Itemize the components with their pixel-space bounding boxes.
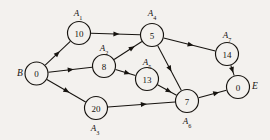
activity-label-a4: A4 [147,8,157,21]
arrow-head-icon [141,102,147,107]
terminal-label-e: E [251,81,258,91]
arrow-head-icon [113,31,119,36]
node-value-a3: 20 [92,104,102,114]
arrow-head-icon [68,68,74,73]
arrow-head-icon [124,70,130,75]
arrow-head-icon [229,66,234,72]
terminal-label-b: B [17,68,23,78]
edge-a2-to-a4 [114,42,142,60]
node-a4[interactable]: 5 [141,24,164,47]
activity-label-a2: A2 [99,43,109,56]
node-a3[interactable]: 20 [85,97,108,120]
network-diagram-canvas: 0108205137140 BA1A2A3A4A5A6A7E [0,0,270,140]
activity-label-a3: A3 [90,123,100,136]
edge-a3-to-a6 [108,102,175,107]
edge-a7-to-e [229,65,234,75]
node-a1[interactable]: 10 [68,22,91,45]
node-value-a5: 13 [143,75,153,85]
node-a7[interactable]: 14 [216,43,239,66]
node-value-a7: 14 [223,50,233,60]
edge-b-to-a2 [48,67,92,72]
activity-label-a6: A6 [182,116,192,129]
activity-label-a1: A1 [73,8,83,21]
node-value-a4: 5 [150,31,155,41]
node-value-a1: 10 [75,29,85,39]
edge-a4-to-a7 [164,38,216,51]
edge-a4-to-a6 [158,46,182,91]
arrow-head-icon [213,91,219,96]
node-value-a2: 8 [102,62,107,72]
node-value-a6: 7 [185,97,190,107]
node-value-b: 0 [34,69,39,79]
node-a5[interactable]: 13 [136,68,159,91]
edge-a2-to-a5 [115,69,135,75]
node-a6[interactable]: 7 [176,90,199,113]
arrow-head-icon [128,46,134,51]
node-a2[interactable]: 8 [93,55,116,78]
edge-b-to-a3 [47,80,86,102]
edge-b-to-a1 [45,41,70,65]
edge-a6-to-e [199,90,227,98]
node-b[interactable]: 0 [25,62,48,85]
edge-a1-to-a4 [91,31,140,36]
node-value-e: 0 [236,83,241,93]
edge-a5-to-a6 [158,85,177,95]
activity-label-a7: A7 [222,30,232,43]
node-e[interactable]: 0 [227,76,250,99]
network-diagram-svg: 0108205137140 BA1A2A3A4A5A6A7E [0,0,270,140]
